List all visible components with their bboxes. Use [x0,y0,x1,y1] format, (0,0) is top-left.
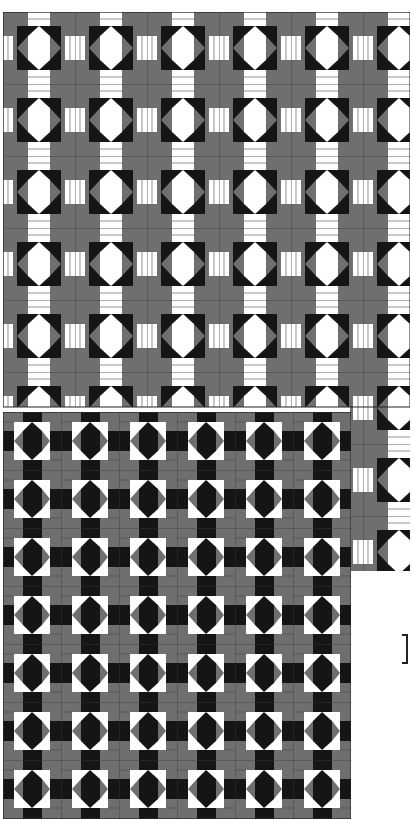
bottom-pattern-swatch [3,412,351,819]
top-pattern-main [3,12,410,407]
bracket-mark [402,634,408,664]
top-pattern-strip [350,407,410,571]
